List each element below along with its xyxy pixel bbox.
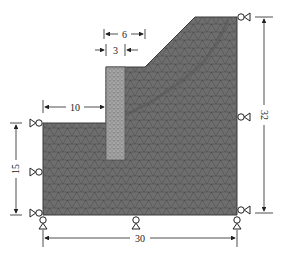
dimension-right-height-label: 32	[259, 110, 270, 120]
dimension-top-offset-label: 6	[122, 29, 127, 40]
dimension-pile-width-label: 3	[113, 45, 118, 56]
roller-left-bottom-icon	[30, 209, 42, 217]
roller-left-mid-icon	[30, 168, 42, 176]
roller-bottom-mid-icon	[132, 217, 140, 229]
roller-right-mid-icon	[238, 113, 250, 121]
slope-pile-fem-diagram: 6 3 10 15 32 30	[0, 0, 282, 256]
dimension-base-width-label: 30	[135, 233, 145, 244]
dimension-left-berm-label: 10	[70, 102, 80, 113]
roller-left-top-icon	[30, 119, 42, 127]
soil-domain	[43, 17, 237, 215]
roller-bottom-left-icon	[39, 217, 47, 229]
roller-right-top-icon	[238, 13, 250, 21]
roller-bottom-right-icon	[233, 217, 241, 229]
dimension-left-height-label: 15	[10, 164, 21, 174]
roller-right-bottom-icon	[238, 206, 250, 214]
pile	[106, 67, 125, 160]
